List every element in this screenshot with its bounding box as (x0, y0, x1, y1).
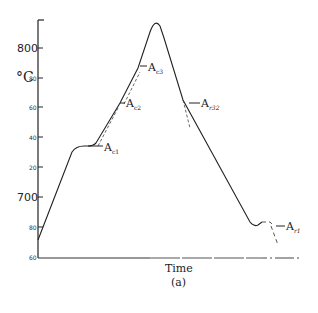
svg-text:r1: r1 (294, 227, 301, 234)
svg-text:r32: r32 (209, 104, 220, 111)
tick-800: 800 (17, 42, 38, 55)
y-axis-label: °C (16, 69, 34, 85)
tick-760: 60 (29, 104, 37, 111)
y-ticks (38, 48, 43, 227)
tick-740: 40 (29, 134, 37, 141)
temperature-time-chart: 800 80 60 40 20 700 80 60 °C A c1 A c2 A… (0, 0, 318, 313)
tick-700: 700 (17, 191, 38, 204)
figure-caption: (a) (171, 276, 186, 289)
ar32-dashed-extrapolation (183, 100, 190, 128)
tick-720: 20 (29, 164, 37, 171)
x-axis-label: Time (165, 262, 193, 275)
tick-660: 60 (29, 254, 37, 261)
svg-text:c3: c3 (156, 68, 163, 75)
temperature-curve (38, 23, 262, 240)
ar1-dashed-segment (262, 222, 278, 245)
svg-text:c2: c2 (134, 104, 141, 111)
tick-680: 80 (29, 224, 37, 231)
svg-text:c1: c1 (112, 148, 119, 155)
